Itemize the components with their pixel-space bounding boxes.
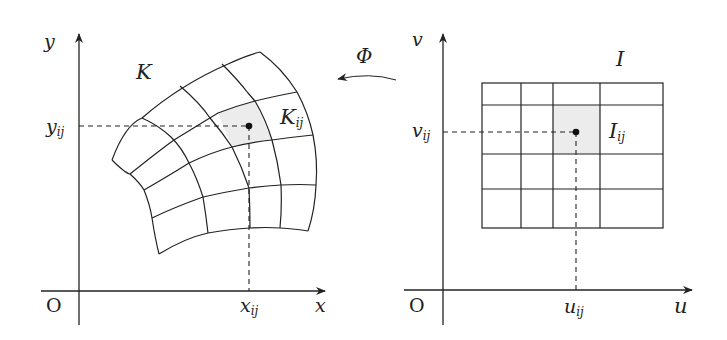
x-ij-tick-label: xij: [240, 296, 258, 317]
right-origin-label: O: [409, 296, 425, 315]
u-axis-label: u: [674, 296, 688, 317]
v-axis-label: v: [412, 30, 423, 49]
left-projection-lines: [79, 126, 249, 291]
cell-k-ij-label: Kij: [280, 107, 303, 129]
region-i-label: I: [616, 49, 624, 70]
cell-i-ij-label: Iij: [609, 121, 625, 143]
region-k-label: K: [136, 62, 152, 83]
left-origin-label: O: [46, 296, 62, 315]
right-projection-lines: [443, 132, 576, 290]
point-u-ij-v-ij: [573, 129, 580, 136]
point-x-ij-y-ij: [246, 123, 253, 130]
x-axis-label: x: [315, 296, 326, 315]
rect-grid-I: [482, 83, 663, 228]
u-ij-tick-label: uij: [564, 297, 584, 318]
phi-mapping-arrow: [338, 76, 396, 80]
left-axes: [41, 34, 325, 325]
y-ij-tick-label: yij: [46, 117, 64, 138]
right-axes: [404, 34, 692, 325]
phi-label: Φ: [356, 46, 372, 66]
v-ij-tick-label: vij: [412, 121, 430, 142]
y-axis-label: y: [44, 32, 55, 51]
highlighted-cell-k-ij: [218, 101, 272, 147]
